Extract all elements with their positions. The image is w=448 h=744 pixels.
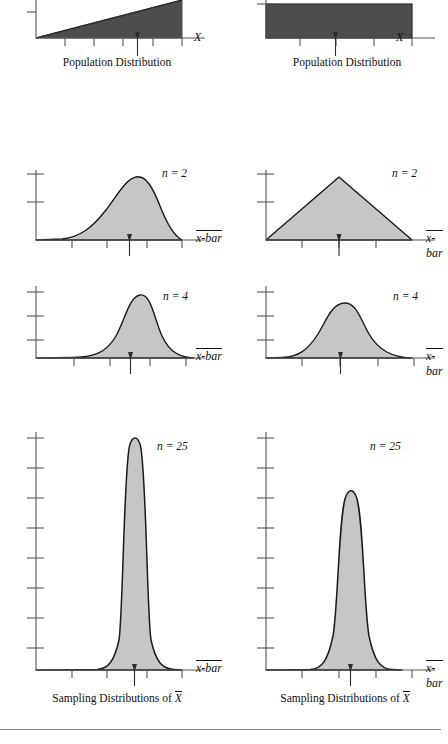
n25-right-plot bbox=[252, 400, 448, 680]
n2-right-curve bbox=[266, 177, 412, 240]
n-label-n2-left: n = 2 bbox=[162, 167, 187, 179]
x-axis-label: X bbox=[194, 30, 201, 45]
xbar-axis-label-n2-left: x-bar bbox=[196, 231, 222, 246]
xbar-overline: x-bar bbox=[196, 661, 222, 676]
n4-right-plot bbox=[252, 278, 448, 370]
n4-right-curve bbox=[266, 303, 412, 358]
n-label-n25-right: n = 25 bbox=[370, 440, 401, 452]
n2-right-plot bbox=[252, 160, 448, 252]
xbar-axis-label-n4-left: x-bar bbox=[196, 349, 222, 364]
caption-prefix: Sampling Distributions of bbox=[52, 692, 174, 704]
caption-prefix: Sampling Distributions of bbox=[280, 692, 402, 704]
panel-n2-left bbox=[22, 160, 222, 252]
panel-n25-left bbox=[22, 400, 222, 680]
xbar-overline: x-bar bbox=[196, 349, 222, 364]
n4-left-curve bbox=[36, 295, 194, 358]
xbar-overline: x-bar bbox=[426, 349, 443, 379]
n-label-n2-right: n = 2 bbox=[392, 167, 417, 179]
caption-xbar-symbol: X bbox=[175, 692, 182, 704]
xbar-axis-label-n2-right: x-bar bbox=[426, 231, 443, 261]
caption-xbar-symbol: X bbox=[403, 692, 410, 704]
xbar-overline: x-bar bbox=[196, 231, 222, 246]
caption-population-right: Population Distribution bbox=[252, 56, 442, 68]
population-left-plot bbox=[22, 0, 222, 50]
population-right-area bbox=[266, 4, 412, 38]
n-label-n4-right: n = 4 bbox=[393, 290, 418, 302]
n-label-n4-left: n = 4 bbox=[163, 290, 188, 302]
xbar-axis-label-n25-right: x-bar bbox=[426, 661, 443, 691]
n2-left-curve bbox=[36, 177, 182, 240]
xbar-overline: x-bar bbox=[426, 231, 443, 261]
population-right-plot bbox=[252, 0, 448, 50]
xbar-axis-label-n4-right: x-bar bbox=[426, 349, 443, 379]
caption-sampling-left: Sampling Distributions of X bbox=[12, 692, 222, 704]
caption-population-left: Population Distribution bbox=[22, 56, 212, 68]
panel-n25-right bbox=[252, 400, 448, 680]
panel-n4-right bbox=[252, 278, 448, 370]
n25-left-curve bbox=[36, 438, 182, 670]
n25-left-plot bbox=[22, 400, 222, 680]
n-label-n25-left: n = 25 bbox=[157, 440, 188, 452]
x-axis-label: X bbox=[396, 30, 403, 45]
panel-n4-left bbox=[22, 278, 222, 370]
n25-right-curve bbox=[266, 491, 402, 670]
n2-left-plot bbox=[22, 160, 222, 252]
n4-left-plot bbox=[22, 278, 222, 370]
bottom-rule bbox=[0, 729, 441, 730]
panel-population-left bbox=[22, 0, 222, 50]
caption-sampling-right: Sampling Distributions of X bbox=[240, 692, 448, 704]
xbar-axis-label-n25-left: x-bar bbox=[196, 661, 222, 676]
xbar-overline: x-bar bbox=[426, 661, 443, 691]
panel-population-right bbox=[252, 0, 448, 50]
panel-n2-right bbox=[252, 160, 448, 252]
